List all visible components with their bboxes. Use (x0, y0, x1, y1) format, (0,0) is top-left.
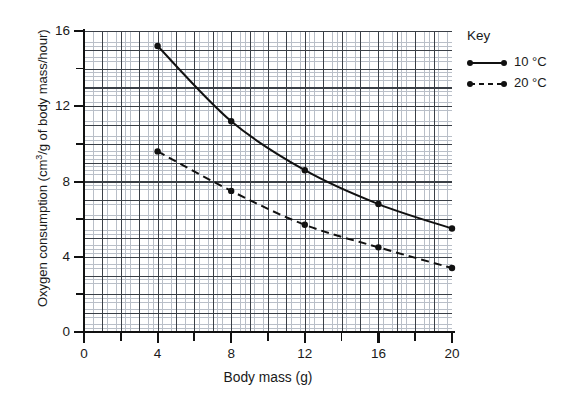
y-tick-minor (76, 218, 84, 220)
x-tick-label: 12 (285, 347, 325, 361)
x-tick-minor (267, 333, 269, 341)
key-title: Key (467, 28, 559, 43)
x-tick-label: 16 (358, 347, 398, 361)
x-tick-label: 20 (432, 347, 472, 361)
y-tick-minor (76, 68, 84, 70)
x-tick-major (377, 333, 379, 343)
x-tick-minor (193, 333, 195, 341)
x-tick-major (451, 333, 453, 343)
plot-area (84, 31, 452, 332)
key-entry-2: 20 °C (467, 73, 559, 91)
x-axis-title: Body mass (g) (84, 370, 452, 385)
x-tick-label: 0 (64, 347, 104, 361)
chart-key: Key 10 °C20 °C (467, 28, 559, 94)
y-tick-minor (76, 143, 84, 145)
major-gridlines (84, 31, 452, 332)
oxygen-consumption-chart: 0481216 048121620 Oxygen consumption (cm… (0, 0, 563, 406)
x-tick-major (230, 333, 232, 343)
key-entry-label: 20 °C (514, 75, 547, 90)
key-entries: 10 °C20 °C (467, 52, 559, 91)
x-tick-minor (341, 333, 343, 341)
x-tick-label: 4 (138, 347, 178, 361)
x-tick-major (83, 333, 85, 343)
y-tick-label: 0 (36, 325, 70, 339)
key-entry-label: 10 °C (514, 54, 547, 69)
x-tick-label: 8 (211, 347, 251, 361)
y-tick-major (74, 105, 84, 107)
y-tick-major (74, 256, 84, 258)
key-line-swatch (467, 55, 507, 67)
y-axis-title-lead: Oxygen consumption (cm (35, 160, 50, 307)
y-tick-major (74, 30, 84, 32)
y-tick-minor (76, 293, 84, 295)
y-axis-title-tail: /g of body mass/hour) (35, 29, 50, 154)
x-tick-major (304, 333, 306, 343)
x-tick-minor (414, 333, 416, 341)
x-tick-major (157, 333, 159, 343)
y-tick-major (74, 181, 84, 183)
key-line-swatch (467, 76, 507, 88)
y-axis-title-superscript: 3 (34, 155, 44, 160)
key-entry-1: 10 °C (467, 52, 559, 70)
x-tick-minor (120, 333, 122, 341)
y-axis-title: Oxygen consumption (cm3/g of body mass/h… (34, 13, 50, 323)
